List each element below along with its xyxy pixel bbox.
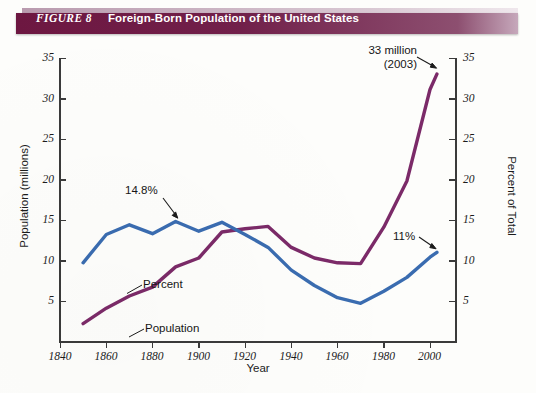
series-label-population: Population [145,322,199,336]
chart-curves [0,40,536,393]
annotation-end-percent: 11% [393,230,415,244]
annotation-end-population: 33 million (2003) [305,44,417,71]
figure-title: Foreign-Born Population of the United St… [108,12,359,24]
chart-plot-area: 5 10 15 20 25 30 35 5 10 15 20 25 30 35 … [0,40,536,393]
figure-number: FIGURE 8 [36,12,92,24]
annotation-peak-percent: 14.8% [125,184,158,198]
series-label-percent: Percent [143,278,183,292]
series-percent-line [83,222,437,304]
figure-header: FIGURE 8 Foreign-Born Population of the … [16,8,518,34]
annotation-arrows [163,57,437,249]
series-population-line [83,74,437,324]
annotation-end-population-line1: 33 million [368,44,417,56]
annotation-end-population-line2: (2003) [384,58,417,70]
figure-page: FIGURE 8 Foreign-Born Population of the … [0,0,536,393]
